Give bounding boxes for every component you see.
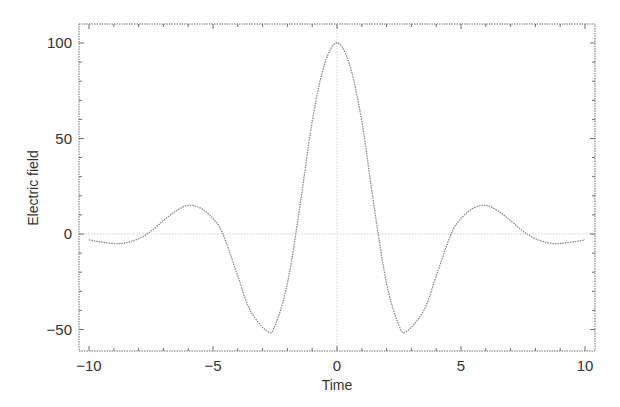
- chart: −10−50510 −50050100 Time Electric field: [0, 0, 620, 407]
- x-axis-label: Time: [322, 377, 353, 393]
- x-tick-labels: −10−50510: [76, 357, 593, 374]
- y-tick-label: 100: [47, 34, 72, 51]
- y-tick-label: 0: [64, 225, 72, 242]
- plot-area: [79, 24, 595, 351]
- y-tick-label: 50: [55, 130, 72, 147]
- y-axis-label: Electric field: [25, 150, 41, 225]
- x-tick-label: 5: [457, 357, 465, 374]
- y-tick-label: −50: [47, 321, 72, 338]
- x-tick-label: −10: [76, 357, 101, 374]
- x-tick-label: −5: [204, 357, 221, 374]
- x-tick-label: 0: [333, 357, 341, 374]
- y-tick-labels: −50050100: [47, 34, 72, 338]
- x-tick-label: 10: [577, 357, 594, 374]
